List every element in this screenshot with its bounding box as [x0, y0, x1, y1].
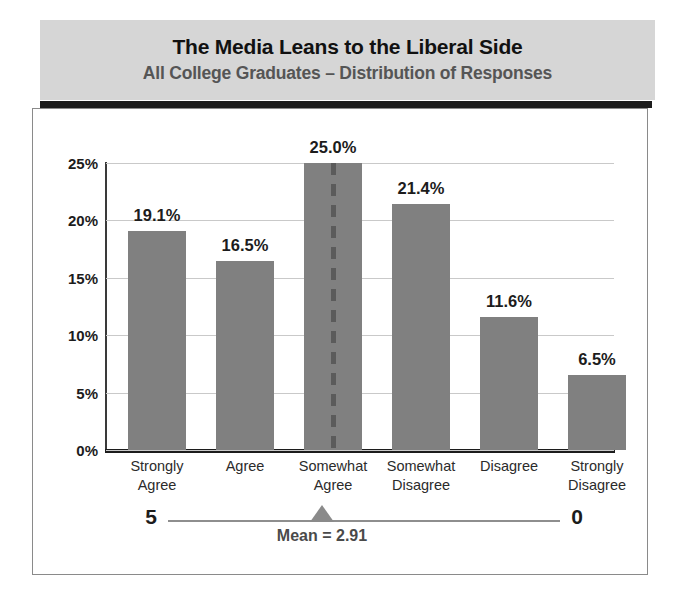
bar-value-label: 25.0%	[285, 138, 381, 157]
page-title: The Media Leans to the Liberal Side	[172, 35, 522, 60]
chart-subtitle: All College Graduates – Distribution of …	[143, 63, 552, 85]
bar-value-label: 16.5%	[197, 236, 293, 255]
x-axis-tick-label-line: Agree	[105, 476, 209, 495]
gridline	[106, 450, 614, 451]
bar	[392, 204, 450, 450]
bar-value-label: 6.5%	[549, 350, 645, 369]
scale-min-label: 0	[562, 505, 592, 529]
y-axis-tick-labels: 0%5%10%15%20%25%	[36, 163, 98, 450]
y-axis-tick-label: 15%	[38, 269, 98, 286]
title-divider-rule	[40, 101, 652, 108]
x-axis-tick-label: StronglyDisagree	[545, 457, 649, 496]
bar	[216, 261, 274, 450]
x-axis-tick-label-line: Disagree	[545, 476, 649, 495]
y-axis-tick-label: 10%	[38, 327, 98, 344]
y-axis-tick-label: 0%	[38, 442, 98, 459]
bar-value-label: 21.4%	[373, 179, 469, 198]
bar	[568, 375, 626, 450]
x-axis-tick-label-line: Disagree	[369, 476, 473, 495]
x-axis-tick-label-line: Strongly	[545, 457, 649, 476]
bar	[128, 231, 186, 450]
mean-label: Mean = 2.91	[232, 527, 412, 545]
y-axis-tick-label: 5%	[38, 384, 98, 401]
mean-dashed-line	[331, 163, 336, 456]
scale-max-label: 5	[136, 505, 166, 529]
title-banner: The Media Leans to the Liberal Side All …	[40, 20, 655, 100]
y-axis-tick-label: 25%	[38, 155, 98, 172]
bar-value-label: 19.1%	[109, 206, 205, 225]
bar	[480, 317, 538, 450]
mean-scale-line	[168, 520, 560, 522]
plot-area: 19.1%16.5%25.0%21.4%11.6%6.5%	[106, 163, 614, 450]
y-axis-tick-label: 20%	[38, 212, 98, 229]
mean-triangle-marker	[310, 505, 334, 522]
bar-value-label: 11.6%	[461, 292, 557, 311]
